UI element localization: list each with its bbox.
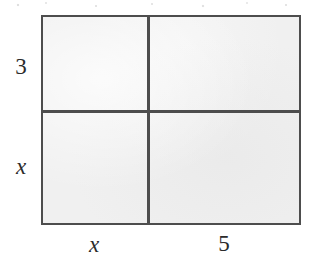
- label-width-left: x: [68, 233, 120, 256]
- scan-noise-artifact: [0, 0, 318, 12]
- label-height-top: 3: [6, 55, 36, 78]
- vertical-divider-line: [147, 15, 150, 225]
- label-height-bottom: x: [6, 155, 36, 178]
- horizontal-divider-line: [41, 110, 301, 113]
- outer-rectangle: [41, 15, 301, 225]
- area-model-figure: 3 x x 5: [0, 0, 318, 270]
- label-width-right: 5: [198, 232, 250, 255]
